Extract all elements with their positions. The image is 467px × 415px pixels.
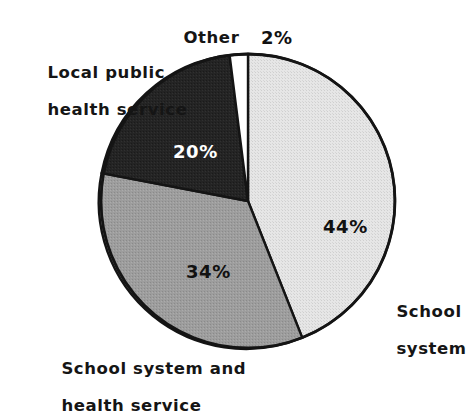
pie-value-local-public-health-service: 20% xyxy=(146,122,218,182)
pie-label-school-system-and-health-service-line2: health service xyxy=(61,396,201,415)
pie-label-school-system-line2: system xyxy=(396,339,466,358)
pie-value-school-system-and-health-service-text: 34% xyxy=(186,261,231,282)
pie-value-other-text: 2% xyxy=(261,27,293,48)
pie-label-school-system-and-health-service-line1: School system and xyxy=(61,359,246,378)
pie-label-school-system-and-health-service: School system and health service xyxy=(36,342,246,415)
pie-value-other: 2% xyxy=(234,8,293,68)
pie-value-local-public-health-service-text: 20% xyxy=(173,141,218,162)
pie-label-local-public-health-service-line1: Local public xyxy=(47,63,165,82)
pie-value-school-system: 44% xyxy=(296,197,368,257)
pie-value-school-system-and-health-service: 34% xyxy=(159,242,231,302)
pie-label-local-public-health-service-line2: health service xyxy=(47,100,187,119)
pie-label-other-text: Other xyxy=(183,28,239,47)
pie-value-school-system-text: 44% xyxy=(323,216,368,237)
pie-label-school-system: School system xyxy=(371,285,467,377)
pie-label-school-system-line1: School xyxy=(396,302,461,321)
